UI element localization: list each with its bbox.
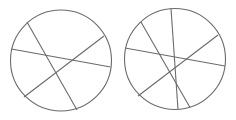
chord-left-1: [27, 22, 77, 110]
figure-left: [11, 10, 112, 111]
chord-left-2: [12, 49, 111, 67]
figure-right: [125, 9, 226, 110]
chord-right-2: [141, 22, 190, 108]
chord-right-1: [171, 9, 178, 110]
circle-division-diagram: [0, 0, 236, 120]
